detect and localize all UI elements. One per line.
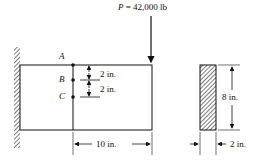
- dim-height: 8 in.: [222, 93, 238, 102]
- beam-diagram: [0, 0, 259, 167]
- point-c: [71, 95, 75, 99]
- label-b: B: [59, 75, 65, 84]
- dim-span: 10 in.: [96, 140, 117, 149]
- dim-ab: 2 in.: [100, 70, 116, 79]
- label-c: C: [59, 92, 65, 101]
- wall-support: [14, 47, 20, 148]
- dim-width: 2 in.: [230, 140, 246, 149]
- dim-bc: 2 in.: [100, 85, 116, 94]
- label-a: A: [59, 52, 65, 61]
- beam: [20, 65, 152, 130]
- point-a: [71, 63, 75, 67]
- cross-section: [200, 65, 216, 130]
- load-label: P = 42,000 lb: [118, 3, 167, 12]
- point-b: [71, 78, 75, 82]
